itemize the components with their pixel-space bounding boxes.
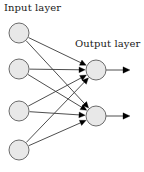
input-node-i3 bbox=[9, 101, 29, 121]
edge-i2-o1 bbox=[29, 69, 80, 70]
output-node-o1 bbox=[86, 60, 106, 80]
edge-arrowhead-i2-o1 bbox=[79, 67, 85, 73]
output-node-o2 bbox=[86, 106, 106, 126]
input-node-circle-i4 bbox=[9, 140, 29, 160]
network-graphic bbox=[0, 0, 144, 172]
input-node-i2 bbox=[9, 59, 29, 79]
edge-i4-o2 bbox=[29, 122, 82, 145]
output-node-circle-o1 bbox=[86, 60, 106, 80]
output-arrows-group bbox=[106, 67, 130, 119]
input-node-i1 bbox=[9, 23, 29, 43]
output-arrowhead-o1 bbox=[123, 67, 130, 73]
input-node-circle-i2 bbox=[9, 59, 29, 79]
neural-network-diagram: Input layer Output layer bbox=[0, 0, 144, 172]
edge-arrowhead-i3-o2 bbox=[79, 112, 85, 118]
output-node-circle-o2 bbox=[86, 106, 106, 126]
edge-arrowhead-i4-o2 bbox=[79, 120, 86, 125]
input-node-circle-i3 bbox=[9, 101, 29, 121]
edges-group bbox=[26, 38, 89, 146]
edge-i1-o1 bbox=[28, 38, 81, 64]
input-layer-label: Input layer bbox=[4, 2, 61, 13]
output-layer-label: Output layer bbox=[75, 38, 140, 49]
output-arrowhead-o2 bbox=[123, 113, 130, 119]
input-node-circle-i1 bbox=[9, 23, 29, 43]
input-node-i4 bbox=[9, 140, 29, 160]
edge-i2-o2 bbox=[28, 74, 83, 107]
